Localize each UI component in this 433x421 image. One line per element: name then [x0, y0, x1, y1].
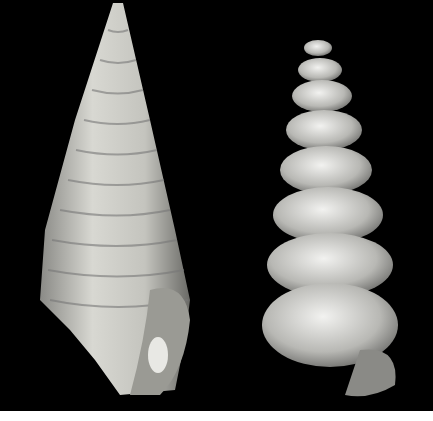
right-shell	[262, 40, 398, 396]
bottom-white-strip	[0, 411, 433, 421]
shells-illustration	[0, 0, 433, 411]
left-shell	[40, 3, 190, 395]
shell-photograph	[0, 0, 433, 411]
